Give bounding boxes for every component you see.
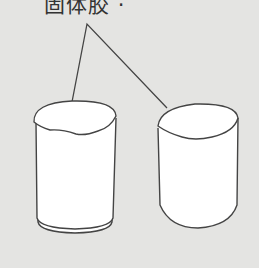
- right-cylinder: [158, 104, 238, 228]
- left-cylinder: [34, 101, 116, 233]
- pointer-lines: [72, 24, 167, 108]
- diagram-canvas: [0, 0, 259, 268]
